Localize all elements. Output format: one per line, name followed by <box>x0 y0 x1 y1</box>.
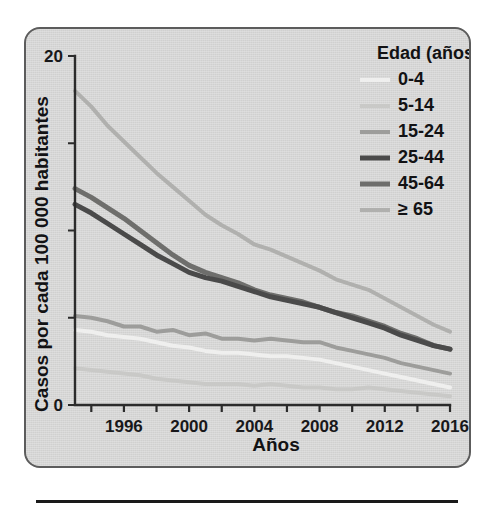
legend-item-45-64[interactable]: 45-64 <box>360 173 444 193</box>
axis-spines <box>75 56 450 405</box>
figure-panel: 020199620002004200820122016 Edad (años)0… <box>24 27 471 468</box>
series-layer <box>75 91 450 396</box>
legend-label-2: 15-24 <box>398 121 444 141</box>
line-chart: 020199620002004200820122016 Edad (años)0… <box>26 29 471 468</box>
legend-item-25-44[interactable]: 25-44 <box>360 147 444 167</box>
legend-item-0-4[interactable]: 0-4 <box>360 69 424 89</box>
legend-label-0: 0-4 <box>398 69 424 89</box>
legend-item-5-14[interactable]: 5-14 <box>360 95 434 115</box>
legend-label-4: 45-64 <box>398 173 444 193</box>
legend-title: Edad (años) <box>377 43 471 63</box>
legend-label-3: 25-44 <box>398 147 444 167</box>
y-tick-label-20: 20 <box>44 47 63 66</box>
x-tick-label-1996: 1996 <box>105 417 143 436</box>
y-axis-title: Casos por cada 100 000 habitantes <box>31 96 52 412</box>
x-axis-title: Años <box>252 434 300 455</box>
series-line-15-24 <box>75 316 450 374</box>
footer-rule <box>36 500 458 503</box>
x-tick-label-2012: 2012 <box>366 417 404 436</box>
y-tick-label-0: 0 <box>54 396 63 415</box>
legend-label-5: ≥ 65 <box>398 199 433 219</box>
x-tick-label-2016: 2016 <box>431 417 469 436</box>
legend-label-1: 5-14 <box>398 95 434 115</box>
chart-legend: Edad (años)0-45-1415-2425-4445-64≥ 65 <box>360 43 471 219</box>
x-tick-label-2008: 2008 <box>301 417 339 436</box>
legend-item-15-24[interactable]: 15-24 <box>360 121 444 141</box>
x-tick-label-2000: 2000 <box>170 417 208 436</box>
series-line-5-14 <box>75 368 450 396</box>
legend-item-65[interactable]: ≥ 65 <box>360 199 433 219</box>
